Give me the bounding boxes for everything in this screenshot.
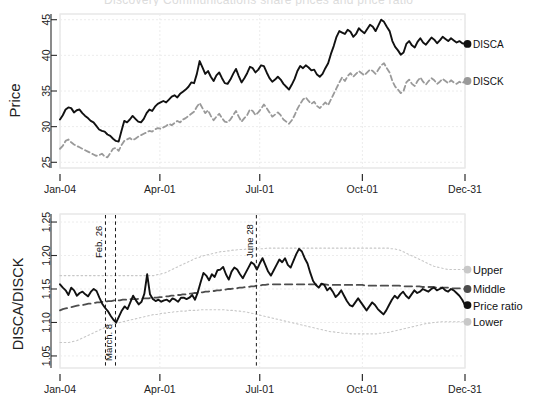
x-axis-tick-label: Jan-04 <box>44 183 76 195</box>
end-marker-price-ratio <box>464 301 472 309</box>
ratio-panel-y-axis-title: DISCA/DISCK <box>10 244 26 364</box>
price-panel-plot: 2530354045Jan-04Apr-01Jul-01Oct-01Dec-31… <box>0 0 538 204</box>
y-axis-tick-label: 1.20 <box>40 245 52 266</box>
y-axis-tick-label: 25 <box>40 156 52 168</box>
series-line-middle <box>60 284 465 310</box>
event-label-feb-26: Feb. 26 <box>93 226 104 258</box>
x-axis-tick-label: Jan-04 <box>44 383 76 395</box>
y-axis-tick-label: 1.05 <box>40 346 52 367</box>
x-axis-tick-label: Jul-01 <box>245 183 274 195</box>
end-marker-disca <box>464 40 472 48</box>
x-axis-tick-label: Dec-31 <box>448 383 482 395</box>
series-line-disck <box>60 63 465 157</box>
plot-frame <box>60 214 465 368</box>
x-axis-tick-label: Jul-01 <box>245 383 274 395</box>
end-marker-lower <box>464 318 472 326</box>
y-axis-tick-label: 1.25 <box>40 212 52 233</box>
legend-label-middle: Middle <box>473 283 505 295</box>
x-axis-tick-label: Oct-01 <box>347 383 379 395</box>
y-axis-tick-label: 45 <box>40 14 52 26</box>
end-marker-disck <box>464 77 472 85</box>
y-axis-tick-label: 1.10 <box>40 312 52 333</box>
x-axis-tick-label: Oct-01 <box>347 183 379 195</box>
y-axis-tick-label: 35 <box>40 85 52 97</box>
legend-label-upper: Upper <box>473 264 503 276</box>
x-axis-tick-label: Dec-31 <box>448 183 482 195</box>
series-line-disca <box>60 20 465 142</box>
price-panel: Price 2530354045Jan-04Apr-01Jul-01Oct-01… <box>0 0 538 204</box>
end-marker-middle <box>464 285 472 293</box>
price-panel-y-axis-title: Price <box>6 61 23 141</box>
legend-label-disca: DISCA <box>473 39 504 50</box>
y-axis-tick-label: 30 <box>40 121 52 133</box>
end-marker-upper <box>464 266 472 274</box>
x-axis-tick-label: Apr-01 <box>144 383 176 395</box>
event-label-june-28: June 28 <box>244 224 255 258</box>
legend-label-disck: DISCK <box>473 76 504 87</box>
series-line-upper <box>60 248 465 275</box>
x-axis-tick-label: Apr-01 <box>144 183 176 195</box>
ratio-panel-plot: 1.051.101.151.201.25Jan-04Apr-01Jul-01Oc… <box>0 204 538 408</box>
legend-label-lower: Lower <box>473 316 503 328</box>
y-axis-tick-label: 40 <box>40 49 52 61</box>
event-label-march-8: March. 8 <box>103 324 114 361</box>
ratio-panel: DISCA/DISCK 1.051.101.151.201.25Jan-04Ap… <box>0 204 538 408</box>
legend-label-price-ratio: Price ratio <box>473 300 523 312</box>
y-axis-tick-label: 1.15 <box>40 279 52 300</box>
